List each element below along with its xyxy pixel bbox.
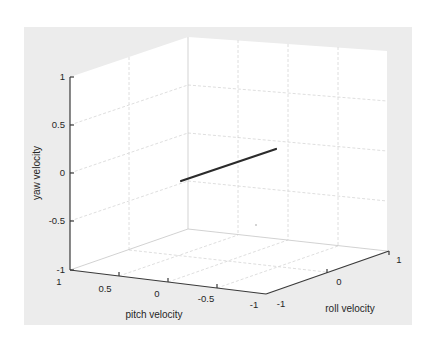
svg-text:-1: -1 (57, 264, 65, 275)
y-axis-label: roll velocity (325, 303, 374, 314)
svg-text:0: 0 (336, 276, 341, 287)
svg-text:1: 1 (396, 254, 401, 265)
x-axis-label: pitch velocity (125, 309, 182, 320)
svg-text:-0.5: -0.5 (49, 215, 65, 226)
figure: 1 0.5 0 -0.5 -1 1 0.5 0 -0.5 -1 -1 0 1 y… (0, 0, 433, 338)
svg-text:0.5: 0.5 (52, 119, 65, 130)
svg-text:1: 1 (60, 71, 65, 82)
svg-text:0: 0 (60, 167, 65, 178)
svg-text:0.5: 0.5 (98, 283, 111, 294)
stray-point (255, 224, 256, 225)
svg-text:1: 1 (56, 276, 61, 287)
svg-text:-1: -1 (250, 299, 258, 310)
svg-text:-1: -1 (277, 298, 285, 309)
z-axis-label: yaw velocity (31, 146, 42, 200)
svg-text:-0.5: -0.5 (198, 293, 214, 304)
back-right-wall (188, 37, 387, 251)
svg-text:0: 0 (154, 288, 159, 299)
